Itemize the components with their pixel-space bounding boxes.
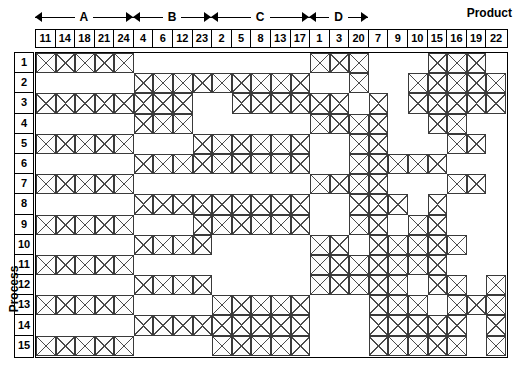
matrix-cell-empty[interactable] [173,174,193,194]
matrix-cell-filled[interactable] [114,134,134,154]
matrix-cell-filled[interactable] [232,73,252,93]
matrix-cell-filled[interactable] [232,295,252,315]
matrix-cell-empty[interactable] [251,235,271,255]
matrix-cell-filled[interactable] [447,73,467,93]
matrix-cell-filled[interactable] [467,295,487,315]
matrix-cell-filled[interactable] [291,194,311,214]
matrix-cell-filled[interactable] [349,174,369,194]
matrix-cell-empty[interactable] [114,315,134,335]
matrix-cell-filled[interactable] [56,53,76,73]
matrix-cell-empty[interactable] [212,235,232,255]
matrix-cell-filled[interactable] [251,295,271,315]
matrix-cell-filled[interactable] [153,235,173,255]
matrix-cell-filled[interactable] [193,215,213,235]
matrix-cell-empty[interactable] [486,174,506,194]
matrix-cell-filled[interactable] [310,53,330,73]
matrix-cell-empty[interactable] [310,295,330,315]
matrix-cell-empty[interactable] [95,235,115,255]
matrix-cell-filled[interactable] [408,235,428,255]
matrix-cell-filled[interactable] [428,93,448,113]
matrix-cell-empty[interactable] [291,275,311,295]
matrix-cell-empty[interactable] [36,315,56,335]
matrix-cell-filled[interactable] [369,235,389,255]
matrix-cell-empty[interactable] [271,275,291,295]
matrix-cell-filled[interactable] [134,275,154,295]
matrix-cell-filled[interactable] [153,114,173,134]
matrix-cell-filled[interactable] [95,53,115,73]
matrix-cell-filled[interactable] [467,53,487,73]
matrix-cell-empty[interactable] [310,194,330,214]
matrix-cell-empty[interactable] [173,134,193,154]
matrix-cell-empty[interactable] [134,215,154,235]
matrix-cell-filled[interactable] [447,336,467,356]
matrix-cell-filled[interactable] [349,215,369,235]
matrix-cell-empty[interactable] [153,134,173,154]
matrix-cell-filled[interactable] [408,336,428,356]
matrix-cell-empty[interactable] [193,174,213,194]
matrix-cell-filled[interactable] [153,93,173,113]
matrix-cell-filled[interactable] [310,174,330,194]
matrix-cell-filled[interactable] [388,194,408,214]
matrix-cell-filled[interactable] [212,154,232,174]
matrix-cell-empty[interactable] [310,73,330,93]
matrix-cell-empty[interactable] [388,174,408,194]
matrix-cell-filled[interactable] [428,154,448,174]
matrix-cell-filled[interactable] [212,336,232,356]
matrix-cell-filled[interactable] [114,53,134,73]
matrix-cell-empty[interactable] [349,315,369,335]
matrix-cell-empty[interactable] [153,295,173,315]
matrix-cell-empty[interactable] [134,174,154,194]
matrix-cell-filled[interactable] [251,315,271,335]
matrix-cell-empty[interactable] [75,154,95,174]
matrix-cell-filled[interactable] [193,235,213,255]
matrix-cell-filled[interactable] [330,114,350,134]
matrix-cell-empty[interactable] [310,154,330,174]
matrix-cell-empty[interactable] [467,255,487,275]
matrix-cell-filled[interactable] [75,295,95,315]
matrix-cell-filled[interactable] [56,134,76,154]
matrix-cell-filled[interactable] [95,93,115,113]
matrix-cell-empty[interactable] [36,235,56,255]
matrix-cell-filled[interactable] [369,114,389,134]
matrix-cell-empty[interactable] [134,53,154,73]
matrix-cell-filled[interactable] [330,275,350,295]
matrix-cell-filled[interactable] [134,194,154,214]
matrix-cell-empty[interactable] [251,114,271,134]
matrix-cell-empty[interactable] [56,275,76,295]
matrix-cell-filled[interactable] [56,215,76,235]
matrix-cell-empty[interactable] [271,235,291,255]
matrix-cell-filled[interactable] [95,336,115,356]
matrix-cell-filled[interactable] [447,114,467,134]
matrix-cell-filled[interactable] [447,174,467,194]
matrix-cell-filled[interactable] [193,315,213,335]
matrix-cell-empty[interactable] [153,174,173,194]
matrix-cell-filled[interactable] [95,174,115,194]
matrix-cell-filled[interactable] [447,134,467,154]
matrix-cell-empty[interactable] [75,194,95,214]
matrix-cell-filled[interactable] [193,275,213,295]
matrix-cell-empty[interactable] [310,336,330,356]
matrix-cell-filled[interactable] [134,114,154,134]
matrix-cell-empty[interactable] [428,295,448,315]
matrix-cell-empty[interactable] [56,235,76,255]
matrix-cell-empty[interactable] [36,114,56,134]
matrix-cell-filled[interactable] [212,215,232,235]
matrix-cell-filled[interactable] [408,215,428,235]
matrix-cell-filled[interactable] [271,295,291,315]
matrix-cell-filled[interactable] [349,255,369,275]
matrix-cell-empty[interactable] [388,114,408,134]
matrix-cell-filled[interactable] [134,73,154,93]
matrix-cell-empty[interactable] [36,154,56,174]
matrix-cell-empty[interactable] [408,275,428,295]
matrix-cell-filled[interactable] [75,255,95,275]
matrix-cell-filled[interactable] [349,194,369,214]
matrix-cell-filled[interactable] [428,336,448,356]
matrix-cell-empty[interactable] [193,295,213,315]
matrix-cell-filled[interactable] [232,194,252,214]
matrix-cell-filled[interactable] [486,336,506,356]
matrix-cell-filled[interactable] [75,174,95,194]
matrix-cell-empty[interactable] [134,336,154,356]
matrix-cell-filled[interactable] [467,73,487,93]
matrix-cell-empty[interactable] [447,255,467,275]
matrix-cell-empty[interactable] [114,154,134,174]
